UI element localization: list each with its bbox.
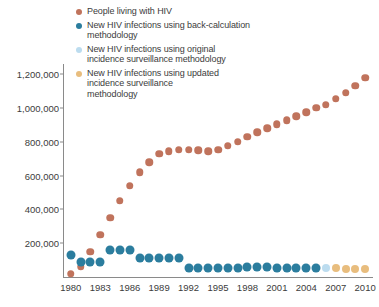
x-axis-tick-label: 1992	[178, 282, 199, 293]
data-point	[263, 262, 272, 271]
legend-entry-back_calculation: New HIV infections using back-calculatio…	[76, 20, 366, 41]
data-point	[116, 197, 124, 205]
data-point	[204, 147, 212, 155]
data-point	[214, 263, 223, 272]
legend-marker-icon-back_calculation	[76, 23, 82, 29]
data-point	[303, 108, 311, 116]
data-point	[244, 133, 252, 141]
x-axis-tick-label: 1998	[237, 282, 258, 293]
plot-area: 200,000400,000600,000800,0001,000,0001,2…	[63, 64, 373, 277]
data-point	[253, 262, 262, 271]
legend-marker-icon-prevalence	[76, 9, 82, 15]
legend-entry-prevalence: People living with HIV	[76, 6, 366, 17]
x-axis-tick-label: 1983	[90, 282, 111, 293]
data-point	[332, 95, 340, 103]
data-point	[312, 263, 321, 272]
x-axis-tick-label: 2010	[355, 282, 376, 293]
data-point	[115, 245, 124, 254]
data-point	[106, 245, 115, 254]
data-point	[96, 258, 105, 267]
data-point	[223, 263, 232, 272]
x-axis-tick-label: 2004	[296, 282, 317, 293]
data-point	[233, 263, 242, 272]
x-axis-tick-label: 1986	[119, 282, 140, 293]
data-point	[76, 258, 85, 267]
data-point	[185, 146, 193, 154]
data-point	[174, 254, 183, 263]
data-point	[66, 251, 75, 260]
data-point	[194, 263, 203, 272]
data-point	[67, 270, 75, 278]
data-point	[214, 146, 222, 154]
data-point	[175, 146, 183, 154]
data-point	[361, 74, 369, 82]
data-point	[282, 263, 291, 272]
data-point	[283, 116, 291, 124]
legend-label-prevalence: People living with HIV	[87, 6, 172, 17]
data-point	[293, 113, 301, 121]
y-axis-tick-label: 600,000	[25, 170, 63, 181]
data-point	[125, 245, 134, 254]
y-axis-tick-label: 1,000,000	[17, 102, 63, 113]
y-axis-tick-label: 400,000	[25, 204, 63, 215]
data-point	[272, 263, 281, 272]
data-point	[184, 263, 193, 272]
data-point	[106, 214, 114, 222]
data-point	[302, 263, 311, 272]
x-axis-tick-label: 1980	[60, 282, 81, 293]
y-axis-tick-mark	[60, 141, 63, 142]
legend-label-original_surveillance: New HIV infections using original incide…	[87, 44, 226, 65]
data-point	[165, 147, 173, 155]
data-point	[351, 265, 359, 273]
data-point	[361, 265, 369, 273]
data-point	[224, 142, 232, 150]
legend-marker-icon-original_surveillance	[76, 47, 82, 53]
data-point	[164, 254, 173, 263]
data-point	[273, 120, 281, 128]
y-axis-tick-mark	[60, 243, 63, 244]
data-point	[135, 254, 144, 263]
data-point	[97, 231, 105, 239]
legend-entry-original_surveillance: New HIV infections using original incide…	[76, 44, 366, 65]
data-point	[136, 168, 144, 176]
data-point	[234, 138, 242, 146]
data-point	[292, 263, 301, 272]
data-point	[126, 182, 134, 190]
hiv-chart: People living with HIVNew HIV infections…	[0, 0, 379, 307]
data-point	[145, 254, 154, 263]
data-point	[342, 89, 350, 97]
data-point	[87, 248, 95, 256]
x-axis-tick-label: 1989	[149, 282, 170, 293]
data-point	[243, 262, 252, 271]
x-axis-tick-label: 1995	[207, 282, 228, 293]
y-axis-tick-label: 800,000	[25, 136, 63, 147]
y-axis-tick-mark	[60, 107, 63, 108]
data-point	[155, 254, 164, 263]
y-axis-tick-label: 1,200,000	[17, 69, 63, 80]
x-axis-line	[63, 277, 373, 278]
data-point	[155, 150, 163, 158]
y-axis-tick-label: 200,000	[25, 238, 63, 249]
y-axis-tick-mark	[60, 209, 63, 210]
data-point	[322, 101, 330, 109]
data-point	[195, 146, 203, 154]
legend-label-back_calculation: New HIV infections using back-calculatio…	[87, 20, 250, 41]
data-point	[332, 264, 340, 272]
x-axis-tick-label: 2001	[266, 282, 287, 293]
y-axis-tick-mark	[60, 74, 63, 75]
data-point	[322, 264, 330, 272]
x-axis-tick-label: 2007	[325, 282, 346, 293]
data-point	[204, 263, 213, 272]
data-point	[253, 129, 261, 137]
y-axis-tick-mark	[60, 175, 63, 176]
data-point	[352, 82, 360, 90]
data-point	[342, 265, 350, 273]
data-point	[312, 104, 320, 112]
data-point	[146, 158, 154, 166]
data-point	[263, 124, 271, 132]
data-point	[86, 258, 95, 267]
